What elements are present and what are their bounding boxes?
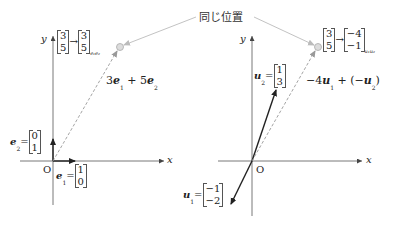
right-mapping: 35→−4−1u₁u₂ xyxy=(323,28,375,54)
right-combination: −4u1 + (−u2) xyxy=(306,75,380,91)
right-x-axis-label: x xyxy=(366,155,372,165)
e1-label: e1=10 xyxy=(56,164,87,188)
right-point xyxy=(315,44,322,51)
right-y-axis-label: y xyxy=(240,34,246,44)
left-dashed-vector xyxy=(53,51,117,161)
right-mapping-to: −4−1 xyxy=(344,28,365,52)
left-axes xyxy=(20,36,164,205)
right-axes xyxy=(218,36,362,216)
left-mapping: 35→35e₁e₂ xyxy=(57,30,100,56)
u2-label: u2=13 xyxy=(254,64,286,88)
same-position-label: 同じ位置 xyxy=(199,12,243,23)
right-mapping-from: 35 xyxy=(323,28,335,52)
u1-label: u1=−1−2 xyxy=(183,183,223,207)
left-y-axis-label: y xyxy=(41,34,47,44)
u1-vector xyxy=(231,161,252,204)
left-x-axis-label: x xyxy=(167,155,173,165)
leader-left xyxy=(124,17,196,45)
left-mapping-to: 35 xyxy=(78,30,90,54)
left-mapping-from: 35 xyxy=(57,30,69,54)
left-origin-label: O xyxy=(43,165,51,175)
right-origin-label: O xyxy=(256,165,264,175)
e2-label: e2=01 xyxy=(10,130,41,154)
left-point xyxy=(117,44,124,51)
leader-right xyxy=(254,17,314,45)
left-combination: 3e1 + 5e2 xyxy=(106,75,158,91)
